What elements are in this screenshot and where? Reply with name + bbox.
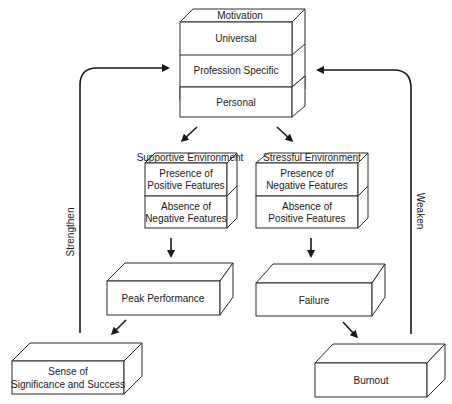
arrow-to-supportive-icon <box>183 127 197 140</box>
motivation-layer-universal: Universal <box>215 33 257 44</box>
burnout-box: Burnout <box>315 344 445 397</box>
failure-box: Failure <box>256 264 385 316</box>
stressful-environment-box: Stressful Environment Presence of Negati… <box>256 152 368 228</box>
stressful-title: Stressful Environment <box>263 152 361 163</box>
burnout-label: Burnout <box>353 375 388 386</box>
strengthen-label: Strengthen <box>65 208 76 257</box>
failure-label: Failure <box>299 295 330 306</box>
stressful-presence-line2: Negative Features <box>266 180 348 191</box>
peak-performance-label: Peak Performance <box>122 293 205 304</box>
stressful-presence-line1: Presence of <box>280 168 334 179</box>
motivation-title: Motivation <box>217 10 263 21</box>
supportive-title: Supportive Environment <box>137 152 244 163</box>
supportive-absence-line2: Negative Features <box>145 213 227 224</box>
peak-performance-box: Peak Performance <box>107 263 233 315</box>
motivation-layer-personal-text: Personal <box>216 97 255 108</box>
motivation-box: Motivation Universal Profession Specific <box>180 9 305 100</box>
sense-of-significance-box: Sense of Significance and Success <box>11 343 142 394</box>
sense-line1: Sense of <box>48 366 88 377</box>
motivation-flow-diagram: Motivation Universal Profession Specific… <box>0 0 452 404</box>
stressful-absence-line2: Positive Features <box>268 213 345 224</box>
stressful-absence-line1: Absence of <box>282 201 332 212</box>
arrow-to-burnout-icon <box>343 322 356 336</box>
supportive-presence-line1: Presence of <box>159 168 213 179</box>
sense-line2: Significance and Success <box>11 379 125 390</box>
weaken-label: Weaken <box>415 193 426 230</box>
supportive-environment-box: Supportive Environment Presence of Posit… <box>137 152 244 228</box>
supportive-absence-line1: Absence of <box>161 201 211 212</box>
arrow-to-stressful-icon <box>277 127 291 140</box>
motivation-layer-profession: Profession Specific <box>193 65 278 76</box>
arrow-to-sense-icon <box>113 320 126 333</box>
supportive-presence-line2: Positive Features <box>147 180 224 191</box>
